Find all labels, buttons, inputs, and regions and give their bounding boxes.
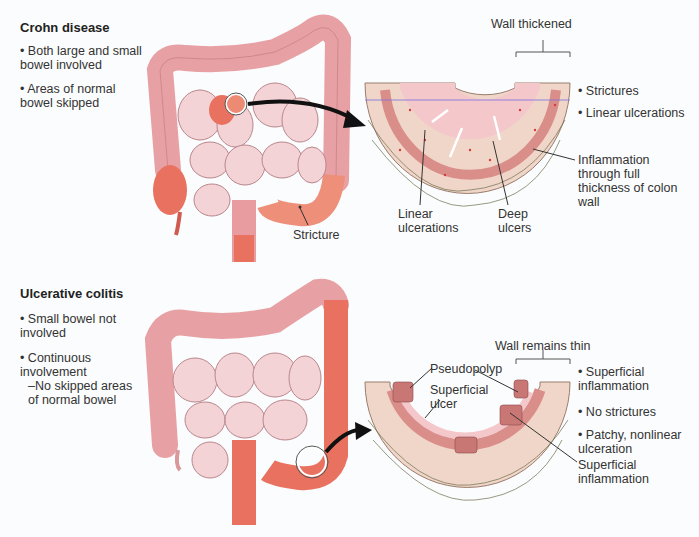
- illustration-layer: [0, 0, 699, 537]
- uc-feature-1-text: Superficial inflammation: [578, 365, 649, 393]
- uc-bullet-2-sub: –No skipped areas of normal bowel: [28, 379, 138, 407]
- inflammation-full-thickness-label: Inflammation through full thickness of c…: [578, 153, 678, 209]
- superficial-inflammation-label: Superficial inflammation: [578, 458, 668, 486]
- uc-feature-1: • Superficial inflammation: [578, 365, 678, 393]
- superficial-ulcer-label: Superficial ulcer: [430, 383, 490, 411]
- crohn-colon-illustration: [153, 28, 338, 262]
- uc-colon-illustration: [158, 292, 336, 525]
- linear-ulcerations-label: Linear ulcerations: [398, 207, 468, 235]
- stricture-label: Stricture: [293, 228, 340, 242]
- uc-feature-2: • No strictures: [578, 405, 656, 419]
- uc-bullet-2: • Continuous involvement: [20, 351, 130, 379]
- uc-feature-2-text: No strictures: [586, 405, 656, 419]
- crohn-feature-1-text: Strictures: [586, 84, 639, 98]
- deep-ulcers-label: Deep ulcers: [498, 207, 548, 235]
- uc-bullet-1-text: Small bowel not involved: [20, 312, 116, 340]
- pseudopolyp-label: Pseudopolyp: [430, 362, 502, 376]
- wall-remains-thin-label: Wall remains thin: [495, 339, 590, 353]
- uc-bullet-2-text: Continuous involvement: [20, 351, 91, 379]
- crohn-feature-2-text: Linear ulcerations: [586, 106, 685, 120]
- crohn-feature-1: • Strictures: [578, 84, 639, 98]
- uc-feature-3-text: Patchy, nonlinear ulceration: [578, 428, 682, 456]
- uc-bullet-1: • Small bowel not involved: [20, 312, 140, 340]
- uc-feature-3: • Patchy, nonlinear ulceration: [578, 428, 688, 456]
- crohn-feature-2: • Linear ulcerations: [578, 106, 685, 120]
- crohn-cross-section: [365, 40, 575, 206]
- uc-title: Ulcerative colitis: [20, 286, 123, 301]
- wall-thickened-label: Wall thickened: [491, 17, 572, 31]
